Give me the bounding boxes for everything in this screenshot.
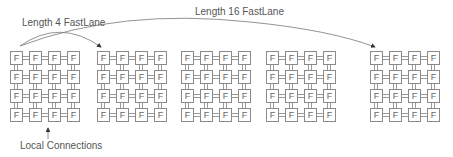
logic-tile: F <box>135 51 148 65</box>
logic-tile: F <box>427 51 440 65</box>
logic-tile: F <box>135 108 148 122</box>
logic-tile: F <box>97 108 110 122</box>
logic-tile: F <box>427 70 440 84</box>
logic-tile: F <box>408 70 421 84</box>
logic-tile: F <box>219 70 232 84</box>
logic-tile: F <box>304 70 317 84</box>
logic-tile: F <box>116 108 129 122</box>
logic-tile: F <box>285 70 298 84</box>
logic-tile: F <box>304 89 317 103</box>
logic-tile: F <box>266 51 279 65</box>
logic-tile: F <box>10 89 23 103</box>
grid-3: FFFFFFFFFFFFFFFF <box>181 51 251 129</box>
logic-tile: F <box>266 108 279 122</box>
logic-tile: F <box>10 108 23 122</box>
logic-tile: F <box>389 70 402 84</box>
logic-tile: F <box>116 70 129 84</box>
logic-tile: F <box>181 108 194 122</box>
grid-5: FFFFFFFFFFFFFFFF <box>370 51 440 129</box>
logic-tile: F <box>370 70 383 84</box>
logic-tile: F <box>97 89 110 103</box>
logic-tile: F <box>200 70 213 84</box>
logic-tile: F <box>219 51 232 65</box>
logic-tile: F <box>238 108 251 122</box>
logic-tile: F <box>238 51 251 65</box>
logic-tile: F <box>97 70 110 84</box>
logic-tile: F <box>323 70 336 84</box>
logic-tile: F <box>29 51 42 65</box>
logic-tile: F <box>116 51 129 65</box>
logic-tile: F <box>389 51 402 65</box>
logic-tile: F <box>48 108 61 122</box>
logic-tile: F <box>304 108 317 122</box>
logic-tile: F <box>285 89 298 103</box>
logic-tile: F <box>10 51 23 65</box>
logic-tile: F <box>408 108 421 122</box>
logic-tile: F <box>181 51 194 65</box>
grid-1: FFFFFFFFFFFFFFFF <box>10 51 80 129</box>
logic-tile: F <box>427 89 440 103</box>
logic-tile: F <box>238 70 251 84</box>
logic-tile: F <box>370 108 383 122</box>
logic-tile: F <box>389 89 402 103</box>
logic-tile: F <box>67 89 80 103</box>
logic-tile: F <box>181 70 194 84</box>
logic-tile: F <box>323 108 336 122</box>
logic-tile: F <box>97 51 110 65</box>
grid-4: FFFFFFFFFFFFFFFF <box>266 51 336 129</box>
logic-tile: F <box>427 108 440 122</box>
logic-tile: F <box>29 108 42 122</box>
logic-tile: F <box>48 70 61 84</box>
logic-tile: F <box>67 70 80 84</box>
logic-tile: F <box>266 89 279 103</box>
logic-tile: F <box>154 51 167 65</box>
logic-tile: F <box>304 51 317 65</box>
logic-tile: F <box>29 70 42 84</box>
logic-tile: F <box>135 70 148 84</box>
logic-tile: F <box>285 108 298 122</box>
logic-tile: F <box>219 89 232 103</box>
logic-tile: F <box>238 89 251 103</box>
logic-tile: F <box>29 89 42 103</box>
logic-tile: F <box>200 108 213 122</box>
logic-tile: F <box>285 51 298 65</box>
logic-tile: F <box>48 51 61 65</box>
length16-fastlane-label: Length 16 FastLane <box>195 7 284 17</box>
logic-tile: F <box>266 70 279 84</box>
length4-fastlane-label: Length 4 FastLane <box>22 18 105 28</box>
logic-tile: F <box>135 89 148 103</box>
grid-2: FFFFFFFFFFFFFFFF <box>97 51 167 129</box>
logic-tile: F <box>323 51 336 65</box>
logic-tile: F <box>67 108 80 122</box>
local-connections-label: Local Connections <box>20 141 102 151</box>
logic-tile: F <box>408 51 421 65</box>
logic-tile: F <box>389 108 402 122</box>
logic-tile: F <box>154 89 167 103</box>
logic-tile: F <box>323 89 336 103</box>
logic-tile: F <box>10 70 23 84</box>
logic-tile: F <box>154 70 167 84</box>
logic-tile: F <box>370 51 383 65</box>
logic-tile: F <box>408 89 421 103</box>
logic-tile: F <box>116 89 129 103</box>
logic-tile: F <box>200 89 213 103</box>
logic-tile: F <box>370 89 383 103</box>
logic-tile: F <box>219 108 232 122</box>
logic-tile: F <box>181 89 194 103</box>
logic-tile: F <box>67 51 80 65</box>
logic-tile: F <box>154 108 167 122</box>
logic-tile: F <box>48 89 61 103</box>
length4-arc <box>20 32 101 47</box>
logic-tile: F <box>200 51 213 65</box>
